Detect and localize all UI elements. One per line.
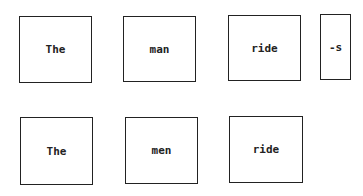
word-label: The [47, 145, 67, 158]
word-box-man: man [123, 16, 196, 82]
word-box-ride: ride [229, 116, 303, 183]
suffix-label: -s [329, 41, 342, 54]
suffix-box-s: -s [320, 14, 351, 80]
word-label: ride [251, 42, 278, 55]
word-label: men [152, 144, 172, 157]
word-box-the: The [20, 117, 93, 185]
word-label: man [150, 43, 170, 56]
word-label: ride [253, 143, 280, 156]
word-box-ride: ride [228, 15, 301, 81]
word-box-men: men [125, 117, 198, 184]
word-box-the: The [19, 16, 92, 83]
word-label: The [46, 43, 66, 56]
